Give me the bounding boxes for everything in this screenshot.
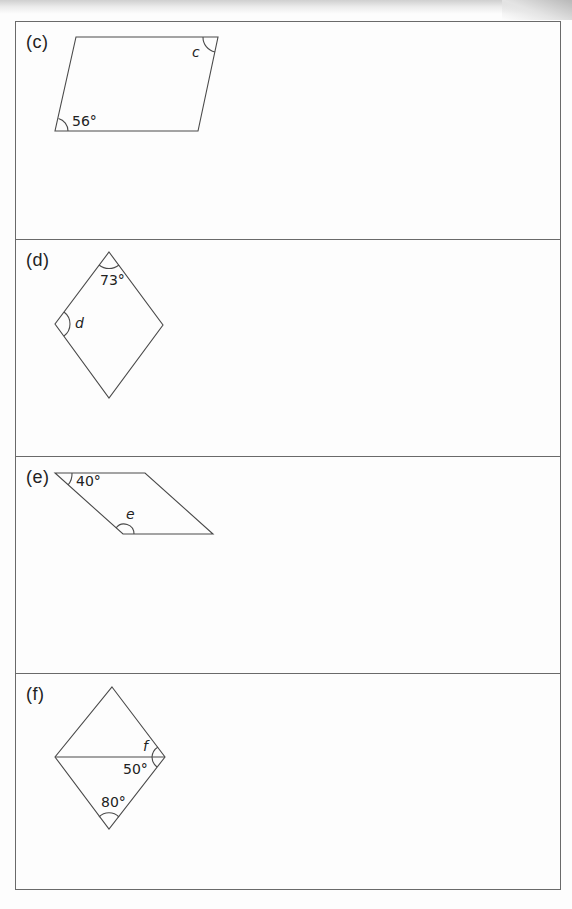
worksheet-grid: (c) (d) (e) (f) bbox=[15, 21, 561, 890]
question-panel-c: (c) bbox=[16, 22, 560, 240]
question-label-f: (f) bbox=[26, 684, 45, 705]
question-label-d: (d) bbox=[26, 250, 50, 271]
question-panel-d: (d) bbox=[16, 240, 560, 457]
question-panel-f: (f) bbox=[16, 674, 560, 889]
question-panel-e: (e) bbox=[16, 457, 560, 674]
question-label-c: (c) bbox=[26, 32, 49, 53]
question-label-e: (e) bbox=[26, 467, 50, 488]
page-scan-shadow bbox=[0, 0, 572, 14]
